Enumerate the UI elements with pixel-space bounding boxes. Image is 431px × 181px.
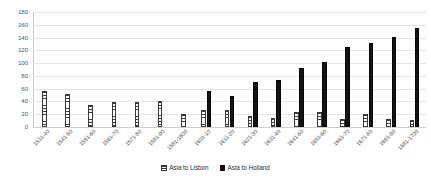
x-tick-label: 1621-30 bbox=[235, 129, 259, 153]
bar-asia-to-holland bbox=[345, 47, 350, 128]
legend-swatch-icon-holland bbox=[220, 165, 226, 171]
plot-area bbox=[33, 12, 426, 127]
bar-asia-to-lisbon bbox=[158, 101, 163, 127]
bar-asia-to-lisbon bbox=[340, 119, 345, 127]
y-axis-ticks: 020406080100120140160180 bbox=[0, 12, 30, 127]
y-tick-label: 140 bbox=[0, 34, 28, 40]
bar-chart: 020406080100120140160180 1531-401541-501… bbox=[0, 0, 431, 181]
bar-asia-to-lisbon bbox=[317, 112, 322, 127]
bar-asia-to-holland bbox=[392, 37, 397, 127]
x-tick-label: 1651-60 bbox=[304, 129, 328, 153]
x-axis-ticks: 1531-401541-501551-601561-701571-801581-… bbox=[33, 129, 426, 163]
bar-asia-to-lisbon bbox=[65, 94, 70, 127]
bar-asia-to-holland bbox=[276, 80, 281, 127]
x-tick-label: 1631-40 bbox=[258, 129, 282, 153]
bar-asia-to-lisbon bbox=[225, 110, 230, 127]
bar-asia-to-lisbon bbox=[201, 110, 206, 127]
bar-asia-to-holland bbox=[322, 62, 327, 127]
bar-asia-to-lisbon bbox=[135, 102, 140, 127]
bar-asia-to-holland bbox=[253, 82, 258, 127]
bar-asia-to-holland bbox=[299, 68, 304, 127]
y-tick-label: 160 bbox=[0, 22, 28, 28]
y-tick-label: 180 bbox=[0, 9, 28, 15]
legend-item-asia-to-lisbon: Asia to Lisbon bbox=[161, 165, 208, 171]
chart-legend: Asia to Lisbon Asia to Holland bbox=[0, 165, 431, 171]
x-tick-label: 1601-10 bbox=[189, 129, 213, 153]
y-tick-label: 120 bbox=[0, 47, 28, 53]
bar-asia-to-holland bbox=[369, 43, 374, 127]
x-tick-label: 1681-90 bbox=[374, 129, 398, 153]
y-tick-label: 20 bbox=[0, 111, 28, 117]
bar-asia-to-lisbon bbox=[294, 112, 299, 127]
x-tick-label: 1611-20 bbox=[212, 129, 236, 153]
bar-asia-to-holland bbox=[415, 28, 420, 127]
legend-swatch-icon-lisbon bbox=[161, 165, 167, 171]
x-tick-label: 1591-1600 bbox=[165, 129, 189, 153]
legend-item-asia-to-holland: Asia to Holland bbox=[220, 165, 270, 171]
x-tick-label: 1691-1700 bbox=[397, 129, 421, 153]
x-tick-label: 1581-90 bbox=[142, 129, 166, 153]
bar-asia-to-lisbon bbox=[181, 114, 186, 127]
x-tick-label: 1561-70 bbox=[96, 129, 120, 153]
bar-asia-to-holland bbox=[207, 91, 212, 127]
bar-asia-to-holland bbox=[230, 96, 235, 127]
bar-asia-to-lisbon bbox=[410, 120, 415, 127]
y-tick-label: 80 bbox=[0, 73, 28, 79]
y-tick-label: 60 bbox=[0, 86, 28, 92]
x-tick-label: 1641-50 bbox=[281, 129, 305, 153]
x-tick-label: 1571-80 bbox=[119, 129, 143, 153]
y-tick-label: 0 bbox=[0, 124, 28, 130]
x-tick-label: 1661-70 bbox=[327, 129, 351, 153]
bar-asia-to-lisbon bbox=[248, 116, 253, 128]
bar-asia-to-lisbon bbox=[88, 105, 93, 127]
x-tick-label: 1531-40 bbox=[27, 129, 51, 153]
x-tick-label: 1671-80 bbox=[350, 129, 374, 153]
bar-asia-to-lisbon bbox=[112, 102, 117, 127]
bars-layer bbox=[33, 12, 426, 127]
legend-label-holland: Asia to Holland bbox=[228, 165, 270, 171]
x-tick-label: 1541-50 bbox=[50, 129, 74, 153]
y-tick-label: 100 bbox=[0, 60, 28, 66]
bar-asia-to-lisbon bbox=[271, 118, 276, 127]
bar-asia-to-lisbon bbox=[386, 119, 391, 127]
bar-asia-to-lisbon bbox=[42, 91, 47, 127]
x-tick-label: 1551-60 bbox=[73, 129, 97, 153]
legend-label-lisbon: Asia to Lisbon bbox=[169, 165, 208, 171]
bar-asia-to-lisbon bbox=[363, 114, 368, 127]
y-tick-label: 40 bbox=[0, 98, 28, 104]
